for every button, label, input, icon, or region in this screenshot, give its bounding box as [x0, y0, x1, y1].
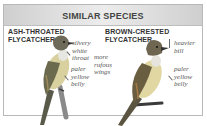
note-heavier-bill: heavier bill — [174, 40, 195, 55]
brown-crested-flycatcher-illustration — [112, 33, 174, 126]
leader-line — [169, 39, 170, 48]
panel-header: SIMILAR SPECIES — [4, 5, 202, 26]
similar-species-panel: SIMILAR SPECIES ASH-THROATED FLYCATCHER … — [3, 4, 203, 116]
panel-title: SIMILAR SPECIES — [62, 11, 144, 21]
note-more-rufous-wings: more rufous wings — [94, 54, 112, 77]
note-paler-yellow-belly: paler yellow belly — [71, 66, 89, 89]
note-silvery-white-throat: silvery white throat — [72, 40, 91, 63]
note-paler-yellow-belly-2: paler yellow belly — [174, 66, 192, 89]
